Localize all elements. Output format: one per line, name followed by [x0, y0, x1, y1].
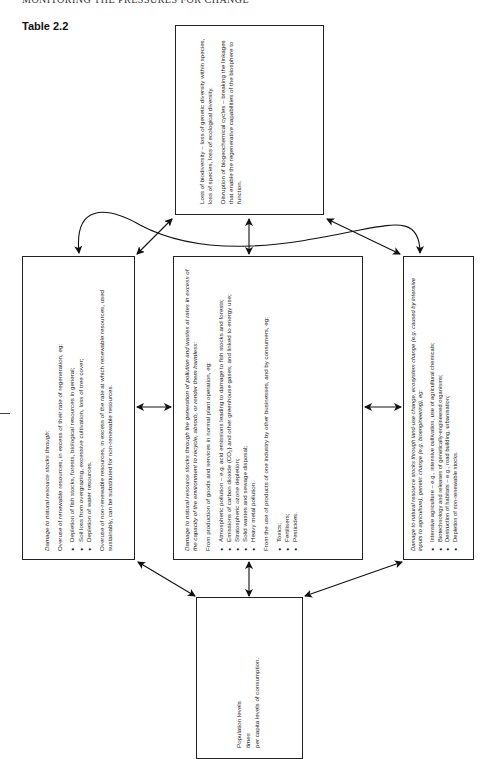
- list-item: Pesticides.: [291, 266, 299, 551]
- box-land-use-change-text: Damage to natural resource stocks throug…: [410, 266, 463, 551]
- list-item: Depletion of water resources.: [85, 266, 93, 551]
- box-biodiversity: Loss of biodiversity – loss of genetic d…: [175, 25, 324, 215]
- list-item: Soil loss from overgrazing, excessive cu…: [77, 266, 85, 551]
- bullet-list: Intensive agriculture – e.g., intensive …: [429, 266, 459, 551]
- list-item: Destruction of habitats – e.g., road bui…: [444, 266, 451, 551]
- arrow-right-bottom: [305, 562, 402, 596]
- paragraph-biodiversity: Loss of biodiversity – loss of genetic d…: [198, 36, 214, 204]
- population-levels-text: Population levels: [235, 608, 244, 748]
- bullet-list-production: Atmospheric pollution – e.g. acid emissi…: [217, 266, 258, 551]
- list-item: Stratospheric ozone depletion;: [233, 266, 241, 551]
- list-item: Emissions of carbon dioxide (CO₂) and ot…: [225, 266, 233, 551]
- bullet-list: Depletion of fish stocks, forests, biolo…: [68, 266, 93, 551]
- list-item: Atmospheric pollution – e.g. acid emissi…: [217, 266, 225, 551]
- box-land-use-change: Damage to natural resource stocks throug…: [403, 256, 474, 560]
- box-population-consumption: Population levels times per capita level…: [196, 597, 303, 759]
- bullet-list-use: Toxics; Fertilisers; Pesticides.: [275, 266, 300, 551]
- box-natural-resource-overuse: Damage to natural resource stocks throug…: [22, 256, 135, 560]
- box-biodiversity-text: Loss of biodiversity – loss of genetic d…: [198, 36, 248, 204]
- intro-text: Overuse of renewable resources, in exces…: [56, 266, 64, 551]
- times-text: times: [244, 608, 253, 748]
- list-item: Depletion of non-renewable stocks.: [452, 266, 459, 551]
- lead-text: Damage to natural resource stocks throug…: [43, 266, 51, 551]
- box-pollution-wastes-text: Damage to natural resource stocks throug…: [183, 266, 304, 551]
- list-item: Depletion of fish stocks, forests, biolo…: [68, 266, 76, 551]
- box-pollution-wastes: Damage to natural resource stocks throug…: [173, 256, 363, 560]
- closing-text: Overuse of non-renewable resources, in e…: [98, 266, 114, 551]
- intro-text-use: From the use of products of one industry…: [262, 266, 270, 551]
- box-natural-resource-overuse-text: Damage to natural resource stocks throug…: [43, 266, 118, 551]
- per-capita-text: per capita levels of consumption.: [253, 608, 262, 748]
- arrow-left-bottom: [138, 562, 195, 596]
- list-item: Intensive agriculture – e.g., intensive …: [429, 266, 436, 551]
- list-item: Solid wastes and sewage disposal;: [241, 266, 249, 551]
- list-item: Toxics;: [275, 266, 283, 551]
- lead-text: Damage to natural resource stocks throug…: [183, 266, 199, 551]
- list-item: Heavy metal pollution.: [249, 266, 257, 551]
- paragraph-biogeochemical: Disruption of biogeochemical cycles – br…: [219, 36, 244, 204]
- arrow-top-right: [327, 219, 400, 254]
- intro-text-production: From production of goods and services in…: [204, 266, 212, 551]
- list-item: Fertilisers;: [283, 266, 291, 551]
- box-population-consumption-text: Population levels times per capita level…: [235, 608, 261, 748]
- lead-text: Damage to natural resource stocks throug…: [410, 266, 425, 551]
- list-item: Biotechnology and releases of geneticall…: [437, 266, 444, 551]
